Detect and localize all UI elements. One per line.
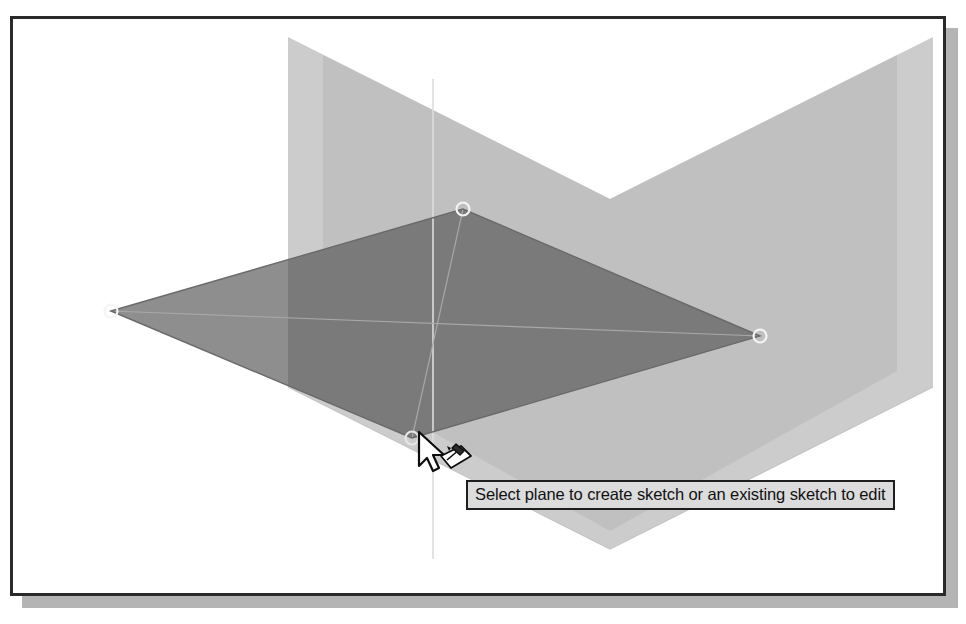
figure-page: Maybe From Selecting the sketch plane Th…	[0, 0, 966, 624]
cad-viewport-frame: Select plane to create sketch or an exis…	[10, 16, 946, 596]
status-tooltip: Select plane to create sketch or an exis…	[466, 480, 895, 510]
